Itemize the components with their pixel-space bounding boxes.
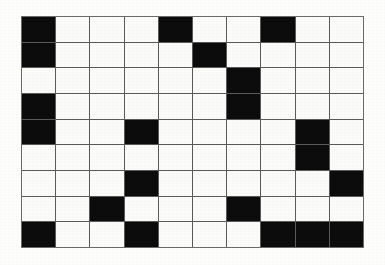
grid-cell-open[interactable] xyxy=(296,197,329,222)
grid-cell-block xyxy=(125,222,158,247)
grid-cell-open[interactable] xyxy=(22,145,55,170)
grid-cell-open[interactable] xyxy=(330,17,363,42)
grid-cell-open[interactable] xyxy=(227,43,260,68)
grid-cell-open[interactable] xyxy=(56,145,89,170)
grid-cell-open[interactable] xyxy=(90,17,123,42)
grid-cell-block xyxy=(227,94,260,119)
grid-cell-open[interactable] xyxy=(125,145,158,170)
grid-cell-open[interactable] xyxy=(56,171,89,196)
grid-cell-open[interactable] xyxy=(125,197,158,222)
grid-cell-open[interactable] xyxy=(330,94,363,119)
grid-cell-open[interactable] xyxy=(193,120,226,145)
grid-cell-block xyxy=(125,171,158,196)
grid-cell-open[interactable] xyxy=(296,43,329,68)
grid-cell-open[interactable] xyxy=(56,43,89,68)
grid-cell-open[interactable] xyxy=(261,43,294,68)
grid-cell-open[interactable] xyxy=(90,43,123,68)
grid-cell-open[interactable] xyxy=(159,145,192,170)
grid-cell-block xyxy=(227,197,260,222)
grid-cell-open[interactable] xyxy=(330,120,363,145)
grid-cell-open[interactable] xyxy=(125,17,158,42)
grid-cell-open[interactable] xyxy=(193,68,226,93)
grid-cell-open[interactable] xyxy=(125,43,158,68)
grid-cell-open[interactable] xyxy=(56,197,89,222)
grid-cell-open[interactable] xyxy=(22,68,55,93)
grid-cell-open[interactable] xyxy=(22,171,55,196)
grid-cell-open[interactable] xyxy=(193,171,226,196)
grid-cell-block xyxy=(227,68,260,93)
grid-cell-open[interactable] xyxy=(227,171,260,196)
grid-cell-open[interactable] xyxy=(22,197,55,222)
grid-cell-open[interactable] xyxy=(193,17,226,42)
grid-cell-open[interactable] xyxy=(90,94,123,119)
grid-cell-open[interactable] xyxy=(159,94,192,119)
grid-cell-block xyxy=(125,120,158,145)
grid-cell-open[interactable] xyxy=(159,171,192,196)
grid-cell-block xyxy=(261,17,294,42)
grid-cell-open[interactable] xyxy=(296,68,329,93)
grid-cell-open[interactable] xyxy=(330,43,363,68)
grid-cell-open[interactable] xyxy=(125,68,158,93)
grid-cell-open[interactable] xyxy=(193,145,226,170)
grid-cell-open[interactable] xyxy=(90,68,123,93)
grid-cell-block xyxy=(22,94,55,119)
grid-cell-open[interactable] xyxy=(261,197,294,222)
grid-cell-block xyxy=(22,43,55,68)
grid-cell-block xyxy=(296,145,329,170)
grid-cell-open[interactable] xyxy=(56,68,89,93)
grid-cell-open[interactable] xyxy=(261,68,294,93)
grid-cell-open[interactable] xyxy=(193,197,226,222)
grid-cell-block xyxy=(90,197,123,222)
grid-cell-open[interactable] xyxy=(227,17,260,42)
puzzle-page xyxy=(0,0,385,265)
grid-cell-open[interactable] xyxy=(193,94,226,119)
grid-cell-block xyxy=(22,17,55,42)
grid-cell-open[interactable] xyxy=(296,171,329,196)
grid-cell-open[interactable] xyxy=(56,94,89,119)
grid-cell-open[interactable] xyxy=(227,120,260,145)
grid-cell-open[interactable] xyxy=(330,145,363,170)
crossword-grid[interactable] xyxy=(21,16,364,248)
grid-cell-block xyxy=(296,222,329,247)
grid-cell-block xyxy=(193,43,226,68)
grid-cell-open[interactable] xyxy=(261,94,294,119)
grid-cell-open[interactable] xyxy=(261,145,294,170)
grid-cell-block xyxy=(22,222,55,247)
grid-cell-open[interactable] xyxy=(159,68,192,93)
grid-cell-block xyxy=(22,120,55,145)
grid-cell-open[interactable] xyxy=(193,222,226,247)
grid-cell-open[interactable] xyxy=(227,222,260,247)
grid-cell-block xyxy=(261,222,294,247)
grid-cell-open[interactable] xyxy=(330,68,363,93)
grid-cell-open[interactable] xyxy=(90,171,123,196)
grid-cell-open[interactable] xyxy=(159,197,192,222)
grid-cell-open[interactable] xyxy=(56,17,89,42)
grid-cell-open[interactable] xyxy=(296,94,329,119)
grid-cell-open[interactable] xyxy=(90,222,123,247)
grid-cell-open[interactable] xyxy=(56,120,89,145)
grid-cell-open[interactable] xyxy=(296,17,329,42)
grid-cell-open[interactable] xyxy=(159,43,192,68)
grid-cell-open[interactable] xyxy=(159,222,192,247)
grid-cell-open[interactable] xyxy=(261,120,294,145)
grid-cell-open[interactable] xyxy=(90,120,123,145)
grid-cell-block xyxy=(159,17,192,42)
grid-cell-open[interactable] xyxy=(261,171,294,196)
grid-cell-block xyxy=(330,171,363,196)
grid-cell-open[interactable] xyxy=(227,145,260,170)
grid-cell-block xyxy=(296,120,329,145)
grid-cell-open[interactable] xyxy=(330,197,363,222)
grid-cell-block xyxy=(330,222,363,247)
grid-cell-open[interactable] xyxy=(90,145,123,170)
grid-cell-open[interactable] xyxy=(159,120,192,145)
grid-cell-open[interactable] xyxy=(56,222,89,247)
grid-cell-open[interactable] xyxy=(125,94,158,119)
